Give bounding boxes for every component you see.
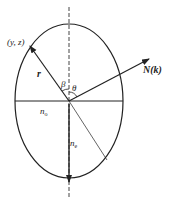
beta-angle-arc bbox=[62, 89, 69, 91]
n-o-label: no bbox=[40, 106, 48, 117]
r-vector-arrow bbox=[30, 46, 69, 101]
n-e-label: ne bbox=[70, 138, 78, 149]
r-vector-label: r bbox=[37, 68, 41, 79]
projection-line bbox=[69, 101, 107, 160]
index-ellipse-diagram: (y, z) r β θ N(k) no ne bbox=[0, 0, 169, 204]
wave-normal-label: N(k) bbox=[142, 64, 162, 76]
theta-label: θ bbox=[72, 83, 77, 93]
wave-normal-arrow bbox=[69, 59, 149, 101]
point-yz-label: (y, z) bbox=[7, 37, 25, 47]
beta-label: β bbox=[60, 79, 66, 89]
